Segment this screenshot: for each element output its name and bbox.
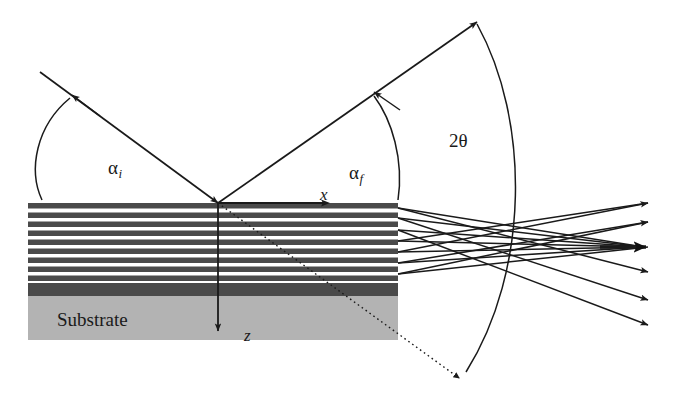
two-theta-arc: [466, 24, 515, 372]
alpha-f-arc: [374, 96, 400, 200]
scattered-ray-fan: [398, 203, 648, 325]
incident-beam: [40, 72, 218, 203]
diagram-canvas: [0, 0, 680, 397]
alpha-f-symbol: α: [349, 162, 359, 183]
alpha-i-arc: [35, 98, 70, 200]
label-alpha-incident: αi: [108, 158, 122, 180]
label-substrate: Substrate: [57, 310, 128, 329]
label-alpha-final: αf: [349, 163, 363, 185]
alpha-f-subscript: f: [359, 171, 363, 186]
multilayer-stripes: [28, 203, 398, 281]
label-z-axis: z: [244, 327, 251, 344]
label-two-theta: 2θ: [449, 131, 468, 150]
alpha-i-subscript: i: [118, 166, 122, 181]
exit-beam: [218, 22, 477, 203]
label-x-axis: x: [320, 186, 328, 203]
alpha-i-symbol: α: [108, 157, 118, 178]
xray-scattering-diagram: αi αf 2θ x z Substrate: [0, 0, 680, 397]
